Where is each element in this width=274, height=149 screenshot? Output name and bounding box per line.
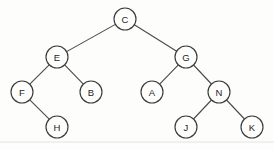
tree-node-b[interactable]: B (80, 81, 102, 103)
tree-node-e[interactable]: E (46, 46, 68, 68)
tree-node-label-e: E (54, 52, 61, 63)
tree-node-g[interactable]: G (175, 46, 197, 68)
tree-edge-n-j (194, 100, 212, 119)
tree-node-label-h: H (53, 122, 60, 133)
tree-node-label-g: G (182, 52, 190, 63)
tree-node-label-b: B (88, 87, 95, 98)
tree-node-a[interactable]: A (141, 81, 163, 103)
tree-node-label-f: F (19, 87, 25, 98)
tree-node-h[interactable]: H (46, 116, 68, 138)
tree-edge-g-n (194, 65, 212, 84)
binary-tree-diagram: CEGFBANHJK (0, 0, 274, 149)
tree-edge-f-h (30, 100, 49, 119)
tree-node-label-a: A (149, 87, 156, 98)
tree-node-label-j: J (184, 122, 189, 133)
tree-node-label-c: C (121, 14, 128, 25)
tree-edge-n-k (227, 100, 245, 119)
tree-node-f[interactable]: F (11, 81, 33, 103)
tree-node-k[interactable]: K (241, 116, 263, 138)
tree-node-n[interactable]: N (208, 81, 230, 103)
tree-node-c[interactable]: C (114, 8, 136, 30)
tree-node-label-n: N (215, 87, 222, 98)
edge-layer (30, 24, 245, 119)
tree-edge-c-g (134, 25, 176, 51)
tree-edge-g-a (160, 65, 179, 84)
tree-edge-e-f (30, 65, 49, 84)
tree-node-j[interactable]: J (175, 116, 197, 138)
tree-edge-c-e (67, 24, 116, 51)
tree-node-label-k: K (249, 122, 256, 133)
tree-edge-e-b (65, 65, 84, 84)
